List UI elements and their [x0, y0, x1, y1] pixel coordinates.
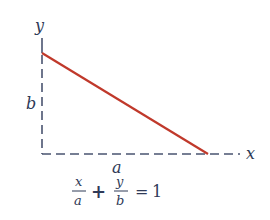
y-intercept-label: b: [26, 94, 36, 113]
x-axis-label: x: [246, 144, 255, 163]
equation: x a + y b = 1: [72, 174, 162, 208]
eq-term2-denominator: b: [116, 193, 124, 208]
eq-term1-denominator: a: [74, 193, 82, 208]
eq-term2-numerator: y: [115, 174, 124, 189]
eq-term1-numerator: x: [75, 174, 83, 189]
intercept-line: [42, 53, 208, 154]
eq-plus: +: [91, 181, 106, 202]
eq-equals: =: [135, 182, 148, 201]
intercept-form-diagram: y x b a x a + y b = 1: [0, 0, 270, 220]
y-axis-label: y: [34, 16, 45, 35]
eq-rhs: 1: [152, 182, 162, 201]
